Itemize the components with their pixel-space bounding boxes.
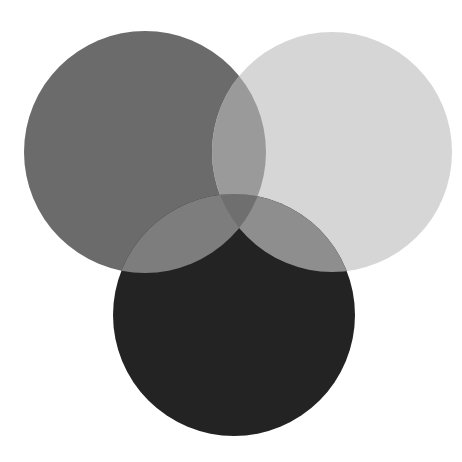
venn-diagram [0, 0, 462, 462]
